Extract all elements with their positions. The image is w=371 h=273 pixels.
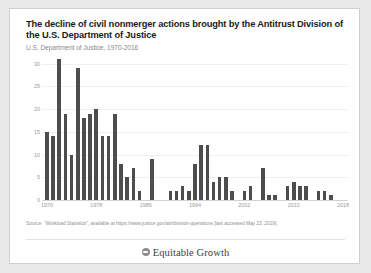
bar — [187, 191, 191, 200]
y-tick-label: 15 — [34, 129, 40, 135]
bar — [292, 182, 296, 200]
x-tick-label: 2010 — [288, 202, 300, 208]
x-tick-label: 1994 — [189, 202, 201, 208]
bar — [51, 136, 55, 200]
x-axis-line — [42, 200, 348, 201]
bar — [286, 186, 290, 200]
y-tick-label: 5 — [37, 174, 40, 180]
bar — [218, 177, 222, 200]
bar — [230, 191, 234, 200]
bar — [45, 132, 49, 200]
y-tick-label: 0 — [37, 197, 40, 203]
chart-subtitle: U.S. Department of Justice, 1970-2016 — [26, 44, 348, 51]
y-tick-label: 20 — [34, 106, 40, 112]
bar — [119, 164, 123, 200]
x-axis-labels: 1970197819861994200220102018 — [42, 202, 348, 212]
brand-name: Equitable Growth — [153, 247, 230, 258]
bar — [224, 177, 228, 200]
x-tick-label: 1970 — [41, 202, 53, 208]
bar — [101, 136, 105, 200]
plot-area: 051015202530 197019781986199420022010201… — [26, 59, 348, 211]
bar — [64, 114, 68, 200]
footer-divider — [26, 239, 345, 240]
bar — [70, 155, 74, 200]
bar — [206, 145, 210, 200]
y-axis-labels: 051015202530 — [26, 59, 40, 200]
bar — [243, 191, 247, 200]
bar — [125, 177, 129, 200]
source-note: Source: “Workload Statistics”, available… — [26, 221, 351, 226]
globe-icon — [142, 248, 150, 256]
bar — [138, 191, 142, 200]
x-tick-label: 2002 — [238, 202, 250, 208]
bar — [113, 114, 117, 200]
x-tick-label: 1978 — [90, 202, 102, 208]
bar — [107, 136, 111, 200]
bar — [199, 145, 203, 200]
bar — [323, 191, 327, 200]
brand-logo: Equitable Growth — [10, 242, 360, 260]
bar — [261, 168, 265, 200]
x-tick-label: 1986 — [140, 202, 152, 208]
bar — [317, 191, 321, 200]
bar — [88, 114, 92, 200]
bar — [193, 164, 197, 200]
bar — [212, 182, 216, 200]
bar — [132, 168, 136, 200]
chart-card: The decline of civil nonmerger actions b… — [9, 8, 360, 264]
bar — [175, 191, 179, 200]
bar — [249, 186, 253, 200]
y-tick-label: 30 — [34, 61, 40, 67]
x-tick-label: 2018 — [337, 202, 349, 208]
bar — [150, 159, 154, 200]
bar — [76, 68, 80, 200]
chart-title: The decline of civil nonmerger actions b… — [26, 19, 348, 42]
y-tick-label: 10 — [34, 152, 40, 158]
bar — [82, 118, 86, 200]
y-tick-label: 25 — [34, 83, 40, 89]
bar — [169, 191, 173, 200]
bar-series — [42, 59, 348, 200]
bar — [298, 186, 302, 200]
bar — [304, 186, 308, 200]
bar — [181, 186, 185, 200]
bar — [94, 109, 98, 200]
bar — [57, 59, 61, 200]
